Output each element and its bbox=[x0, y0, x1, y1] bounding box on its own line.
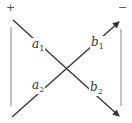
label-a1-sub: 1 bbox=[39, 44, 44, 53]
label-a2-sub: 2 bbox=[39, 85, 44, 94]
butterfly-diagram: + − a1 b1 a2 b2 bbox=[0, 0, 132, 123]
label-b2: b2 bbox=[89, 81, 104, 96]
label-a2: a2 bbox=[31, 79, 45, 94]
plus-sign: + bbox=[6, 2, 15, 13]
label-b1-base: b bbox=[91, 35, 99, 49]
label-b2-sub: 2 bbox=[98, 87, 103, 96]
diagram-lines bbox=[0, 0, 132, 123]
label-b2-base: b bbox=[90, 80, 98, 94]
label-a1: a1 bbox=[31, 38, 45, 53]
label-b1: b1 bbox=[90, 36, 105, 51]
label-b1-sub: 1 bbox=[99, 42, 104, 51]
minus-sign: − bbox=[118, 2, 127, 13]
